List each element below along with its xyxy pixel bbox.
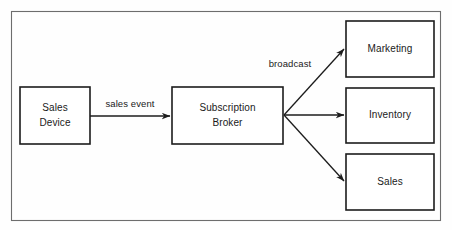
edge-broadcast-sales [284,115,344,181]
node-sales-label: Sales [377,176,403,187]
node-sales-device-label-line2: Device [39,117,71,128]
edge-broadcast-label: broadcast [269,58,312,69]
node-sales-device[interactable]: Sales Device [20,87,90,144]
node-sales[interactable]: Sales [346,154,434,210]
node-marketing[interactable]: Marketing [346,21,434,77]
node-subscription-broker-label-line1: Subscription [199,102,255,113]
edge-sales-event-label: sales event [105,98,154,109]
edge-broadcast-sales-line [284,115,344,181]
node-subscription-broker-label-line2: Broker [212,117,243,128]
node-inventory-label: Inventory [369,109,411,120]
node-sales-device-box[interactable] [20,87,90,144]
edge-sales-event: sales event [90,98,170,116]
diagram-svg: sales event broadcast Sales Device Subsc… [0,0,452,230]
diagram-canvas: sales event broadcast Sales Device Subsc… [0,0,452,230]
node-subscription-broker[interactable]: Subscription Broker [172,87,283,144]
node-sales-device-label-line1: Sales [42,102,68,113]
node-marketing-label: Marketing [368,43,413,54]
node-inventory[interactable]: Inventory [346,88,434,143]
node-subscription-broker-box[interactable] [172,87,283,144]
